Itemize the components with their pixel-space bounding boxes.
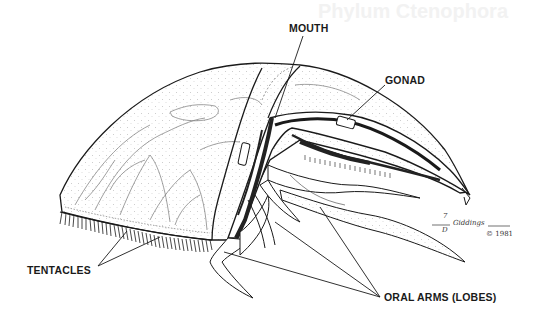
jellyfish-illustration xyxy=(0,0,539,327)
signature-name: Giddings xyxy=(453,219,485,227)
tentacles-leader-1 xyxy=(98,231,127,266)
signature-initial-top: 7 xyxy=(443,212,447,220)
label-gonad: GONAD xyxy=(385,74,425,86)
label-oral-arms: ORAL ARMS (LOBES) xyxy=(384,291,496,303)
oral-arms-leader-1 xyxy=(224,252,380,297)
signature-initial-bottom: D xyxy=(442,226,448,234)
tentacles-leader-2 xyxy=(98,237,160,266)
label-tentacles: TENTACLES xyxy=(27,264,91,276)
label-mouth: MOUTH xyxy=(289,22,329,34)
signature-copyright: © 1981 xyxy=(486,230,513,238)
oral-arms-leader-2 xyxy=(275,222,380,297)
